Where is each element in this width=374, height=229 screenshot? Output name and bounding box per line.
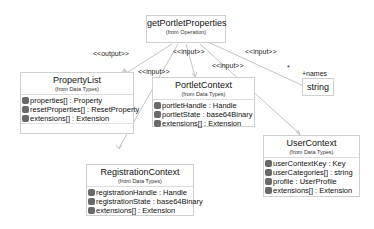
- attribute-list: properties[] : Property resetProperties[…: [21, 94, 133, 123]
- operation-name: getPortletProperties: [147, 18, 225, 29]
- class-package: (from Data Types): [264, 149, 359, 156]
- attribute-icon: [88, 207, 95, 214]
- attribute-list: userContextKey : Key userCategories[] : …: [264, 157, 359, 195]
- attribute-icon: [265, 169, 272, 176]
- class-name: UserContext: [264, 138, 359, 149]
- class-name: RegistrationContext: [87, 167, 193, 178]
- attribute-row: registrationState : base64Binary: [87, 197, 193, 206]
- operation-get-portlet-properties[interactable]: getPortletProperties (from Operation): [146, 15, 226, 43]
- attribute-row: profile : UserProfile: [264, 177, 359, 186]
- class-user-context[interactable]: UserContext (from Data Types) userContex…: [263, 135, 360, 197]
- class-name: string: [303, 82, 333, 93]
- attribute-row: portletHandle : Handle: [153, 101, 254, 110]
- attribute-icon: [265, 160, 272, 167]
- class-package: (from Data Types): [21, 86, 133, 93]
- attribute-icon: [154, 102, 161, 109]
- attribute-icon: [265, 187, 272, 194]
- attribute-row: registrationHandle : Handle: [87, 188, 193, 197]
- attribute-icon: [22, 97, 29, 104]
- attribute-row: userContextKey : Key: [264, 159, 359, 168]
- attribute-row: resetProperties[] : ResetProperty: [21, 105, 133, 114]
- attribute-icon: [88, 198, 95, 205]
- attribute-icon: [22, 115, 29, 122]
- class-registration-context[interactable]: RegistrationContext (from Data Types) re…: [86, 164, 194, 216]
- attribute-row: extensions[] : Extension: [264, 186, 359, 195]
- attribute-row: properties[] : Property: [21, 96, 133, 105]
- attribute-row: extensions[] : Extension: [153, 119, 254, 128]
- attribute-row: userCategories[] : string: [264, 168, 359, 177]
- label-input-names: <<input>>: [245, 48, 277, 55]
- class-property-list[interactable]: PropertyList (from Data Types) propertie…: [20, 72, 134, 134]
- attribute-icon: [154, 111, 161, 118]
- attribute-icon: [265, 178, 272, 185]
- operations-compartment: [21, 123, 133, 129]
- label-output: <<output>>: [93, 50, 129, 57]
- attribute-row: extensions[] : Extension: [87, 206, 193, 215]
- attribute-icon: [88, 189, 95, 196]
- label-multiplicity: *: [287, 64, 290, 71]
- attribute-row: extensions[] : Extension: [21, 114, 133, 123]
- class-string[interactable]: string: [302, 78, 334, 96]
- class-name: PropertyList: [21, 75, 133, 86]
- class-name: PortletContext: [153, 80, 254, 91]
- attribute-list: portletHandle : Handle portletState : ba…: [153, 99, 254, 128]
- class-package: (from Data Types): [153, 91, 254, 98]
- class-portlet-context[interactable]: PortletContext (from Data Types) portlet…: [152, 77, 255, 127]
- label-input-registration: <<input>>: [138, 68, 170, 75]
- label-role-names: +names: [302, 70, 327, 77]
- class-package: (from Data Types): [87, 178, 193, 185]
- label-input-user: <<input>>: [212, 62, 244, 69]
- attribute-icon: [22, 106, 29, 113]
- attribute-icon: [154, 120, 161, 127]
- operation-stereotype: (from Operation): [147, 29, 225, 36]
- attribute-row: portletState : base64Binary: [153, 110, 254, 119]
- attribute-list: registrationHandle : Handle registration…: [87, 186, 193, 215]
- label-input-portlet: <<input>>: [173, 48, 205, 55]
